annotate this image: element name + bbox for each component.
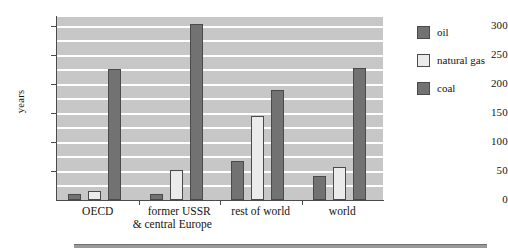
y-tick-mark — [51, 171, 57, 172]
legend: oil natural gas coal — [417, 25, 502, 109]
x-axis-label-line1: rest of world — [231, 205, 290, 217]
bar-oil-world — [313, 176, 326, 200]
figure: years 050100150200250300 OECDformer USSR… — [0, 0, 508, 251]
legend-swatch-natural-gas — [417, 54, 430, 67]
gridline — [57, 113, 383, 115]
x-axis-label-line1: former USSR — [148, 205, 211, 217]
legend-item-oil[interactable]: oil — [417, 25, 502, 39]
legend-label-oil: oil — [437, 27, 449, 38]
bar-natural-gas-rest-of-world — [251, 116, 264, 200]
gridline — [57, 40, 383, 42]
bar-oil-oecd — [68, 194, 81, 200]
bar-coal-world — [353, 68, 366, 200]
gridline — [57, 26, 383, 28]
y-tick-mark — [51, 84, 57, 85]
gridline — [57, 142, 383, 144]
y-tick-mark — [51, 142, 57, 143]
bar-oil-former-ussr-central-europe — [150, 194, 163, 200]
y-axis-title: years — [15, 72, 26, 132]
x-axis-label: OECD — [57, 205, 139, 218]
legend-swatch-oil — [417, 26, 430, 39]
x-axis-label: world — [302, 205, 384, 218]
legend-label-coal: coal — [437, 83, 455, 94]
gridline — [57, 98, 383, 100]
y-tick-label: 0 — [462, 194, 508, 205]
y-tick-label: 100 — [462, 136, 508, 147]
gridline — [57, 156, 383, 158]
x-axis-label-line1: world — [329, 205, 356, 217]
legend-swatch-coal — [417, 82, 430, 95]
x-axis-label: rest of world — [220, 205, 302, 218]
gridline — [57, 84, 383, 86]
y-tick-label: 50 — [462, 165, 508, 176]
y-tick-mark — [51, 55, 57, 56]
y-axis-line — [56, 16, 57, 201]
bar-oil-rest-of-world — [231, 161, 244, 200]
bar-natural-gas-world — [333, 167, 346, 200]
legend-item-coal[interactable]: coal — [417, 81, 502, 95]
bar-natural-gas-former-ussr-central-europe — [170, 170, 183, 200]
legend-label-natural-gas: natural gas — [437, 55, 485, 66]
legend-item-natural-gas[interactable]: natural gas — [417, 53, 502, 67]
bar-coal-rest-of-world — [271, 90, 284, 200]
x-axis-label: former USSR& central Europe — [139, 205, 221, 231]
footer-rule — [74, 244, 487, 248]
bar-natural-gas-oecd — [88, 191, 101, 200]
gridline — [57, 127, 383, 129]
gridline — [57, 55, 383, 57]
gridline — [57, 69, 383, 71]
bar-coal-oecd — [108, 69, 121, 200]
x-axis-label-line1: OECD — [82, 205, 113, 217]
x-axis-label-line2: & central Europe — [125, 218, 221, 231]
y-tick-mark — [51, 113, 57, 114]
y-tick-mark — [51, 26, 57, 27]
bar-coal-former-ussr-central-europe — [190, 24, 203, 200]
